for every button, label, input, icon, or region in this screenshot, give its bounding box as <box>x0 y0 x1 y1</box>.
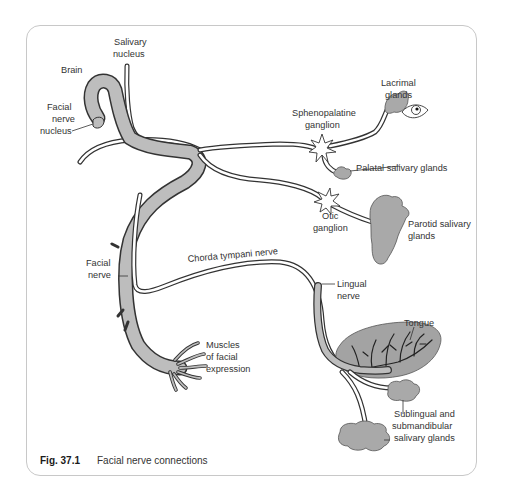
lesser-petrosal-branch <box>200 155 372 222</box>
palatal-gland <box>334 167 351 179</box>
label-brain: Brain <box>61 65 82 75</box>
facial-nerve-diagram: Salivary nucleus Brain Facial nerve nucl… <box>0 0 505 502</box>
label-muscles-2: of facial <box>206 352 238 362</box>
label-lingual: Lingual <box>337 279 367 289</box>
label-facial-nerve-nucleus-3: nucleus <box>40 126 72 136</box>
label-lingual-2: nerve <box>337 291 360 301</box>
label-sphenopalatine-2: ganglion <box>305 120 340 130</box>
label-parotid-2: glands <box>408 231 435 241</box>
label-salivary-nucleus: Salivary <box>114 37 147 47</box>
label-sublingual: Sublingual and <box>394 409 455 419</box>
label-muscles: Muscles <box>206 340 240 350</box>
facial-nerve-trunk <box>91 81 206 390</box>
submandibular-branch <box>342 372 392 428</box>
label-parotid: Parotid salivary <box>408 219 471 229</box>
label-lacrimal-2: glands <box>385 90 412 100</box>
label-facial-nerve: Facial <box>86 258 111 268</box>
label-sublingual-3: salivary glands <box>394 433 455 443</box>
caption-number: Fig. 37.1 <box>40 455 80 466</box>
label-salivary-nucleus-2: nucleus <box>113 49 145 59</box>
label-facial-nerve-nucleus: Facial <box>47 102 72 112</box>
label-facial-nerve-2: nerve <box>88 270 111 280</box>
label-palatal: Palatal salivary glands <box>356 163 448 173</box>
label-facial-nerve-nucleus-2: nerve <box>52 114 75 124</box>
label-lacrimal: Lacrimal <box>381 78 416 88</box>
parotid-gland <box>370 195 409 264</box>
label-otic: Otic <box>322 211 339 221</box>
label-otic-2: ganglion <box>313 223 348 233</box>
label-muscles-3: expression <box>206 364 250 374</box>
label-tongue: Tongue <box>404 318 434 328</box>
sublingual-gland <box>388 380 420 401</box>
label-sublingual-2: submandibular <box>392 421 452 431</box>
leader-facial-nerve-nucleus <box>72 124 93 131</box>
label-sphenopalatine: Sphenopalatine <box>292 108 356 118</box>
caption-text: Facial nerve connections <box>97 455 208 466</box>
submandibular-gland <box>338 421 389 451</box>
